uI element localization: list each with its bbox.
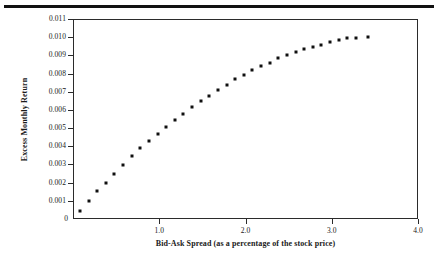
y-axis-tick-label: 0.008 xyxy=(6,70,66,78)
data-point xyxy=(329,41,332,44)
y-axis-tick xyxy=(68,74,74,75)
data-point xyxy=(130,154,133,157)
data-point xyxy=(122,163,125,166)
y-axis-zero-label: 0 xyxy=(52,215,68,223)
data-point xyxy=(225,83,228,86)
data-point xyxy=(156,132,159,135)
data-point xyxy=(96,190,99,193)
y-axis-tick xyxy=(68,164,74,165)
data-point xyxy=(354,36,357,39)
y-axis-tick xyxy=(68,146,74,147)
x-axis-tick-label: 4.0 xyxy=(398,226,438,235)
x-axis-tick xyxy=(332,219,333,224)
y-axis-tick-label: 0.004 xyxy=(6,142,66,150)
data-point xyxy=(260,64,263,67)
data-point xyxy=(285,53,288,56)
y-axis-tick xyxy=(68,201,74,202)
data-point xyxy=(139,147,142,150)
data-point xyxy=(216,89,219,92)
data-point xyxy=(104,181,107,184)
y-axis-tick-label: 0.005 xyxy=(6,124,66,132)
x-axis-tick-label: 1.0 xyxy=(139,226,179,235)
data-point xyxy=(251,68,254,71)
x-axis-tick xyxy=(418,219,419,224)
scatter-plot-area xyxy=(73,19,418,219)
y-axis-tick xyxy=(68,183,74,184)
data-point xyxy=(294,50,297,53)
y-axis-tick-label: 0.011 xyxy=(6,15,66,23)
data-point xyxy=(147,140,150,143)
y-axis-tick xyxy=(68,92,74,93)
data-point xyxy=(234,78,237,81)
data-point xyxy=(78,209,81,212)
data-point xyxy=(182,112,185,115)
y-axis-tick-label: 0.007 xyxy=(6,88,66,96)
data-point xyxy=(208,94,211,97)
y-axis-title: Excess Monthly Return xyxy=(20,55,29,185)
top-horizontal-rule xyxy=(4,5,434,8)
y-axis-tick xyxy=(68,128,74,129)
x-axis-title: Bid-Ask Spread (as a percentage of the s… xyxy=(73,239,418,248)
y-axis-tick-label: 0.002 xyxy=(6,179,66,187)
data-point xyxy=(242,74,245,77)
data-point xyxy=(165,125,168,128)
y-axis-tick xyxy=(68,19,74,20)
x-axis-tick-label: 3.0 xyxy=(312,226,352,235)
y-axis-tick-label: 0.009 xyxy=(6,51,66,59)
y-axis-tick-label: 0.006 xyxy=(6,106,66,114)
y-axis-tick-label: 0.003 xyxy=(6,160,66,168)
data-point xyxy=(346,37,349,40)
chart-figure: 0.0010.0020.0030.0040.0050.0060.0070.008… xyxy=(0,0,438,261)
data-point xyxy=(320,44,323,47)
y-axis-tick xyxy=(68,37,74,38)
data-point xyxy=(303,48,306,51)
y-axis-tick xyxy=(68,55,74,56)
x-axis-tick xyxy=(159,219,160,224)
x-axis-tick xyxy=(246,219,247,224)
y-axis-tick xyxy=(68,110,74,111)
data-point xyxy=(87,200,90,203)
data-point xyxy=(366,35,369,38)
data-point xyxy=(113,173,116,176)
data-point xyxy=(191,105,194,108)
data-point xyxy=(173,118,176,121)
data-point xyxy=(268,61,271,64)
data-point xyxy=(311,46,314,49)
y-axis-tick-label: 0.001 xyxy=(6,197,66,205)
x-axis-tick-label: 2.0 xyxy=(226,226,266,235)
data-point xyxy=(337,39,340,42)
data-point xyxy=(199,99,202,102)
y-axis-tick-label: 0.010 xyxy=(6,33,66,41)
data-point xyxy=(277,57,280,60)
